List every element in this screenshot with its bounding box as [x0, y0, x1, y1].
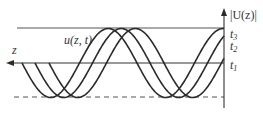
- magnitude-axis-label: |U(z)|: [230, 9, 257, 21]
- time-label-t2: t2: [230, 40, 237, 54]
- time-label-t1: t1: [230, 59, 237, 73]
- wave-function-label: u(z, t): [64, 34, 92, 46]
- z-axis-arrow-icon: [6, 60, 14, 66]
- z-axis-label: z: [12, 44, 17, 56]
- wave-diagram: [0, 0, 263, 116]
- magnitude-axis-arrow-icon: [221, 8, 227, 16]
